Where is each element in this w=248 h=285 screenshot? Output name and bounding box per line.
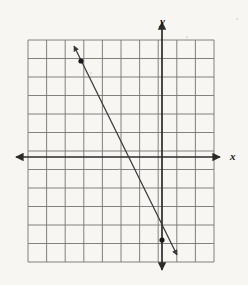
paper-speck (186, 36, 188, 38)
coordinate-plane-svg (0, 0, 248, 285)
plot-point-upper (78, 58, 83, 63)
paper-speck (90, 72, 92, 74)
graph-canvas: y x (0, 0, 248, 285)
x-axis-label: x (230, 151, 236, 162)
paper-speck (236, 18, 238, 20)
grid-lines (28, 40, 214, 262)
plot-point-lower (159, 237, 164, 242)
paper-speck (118, 168, 120, 170)
y-axis-label: y (160, 16, 165, 27)
